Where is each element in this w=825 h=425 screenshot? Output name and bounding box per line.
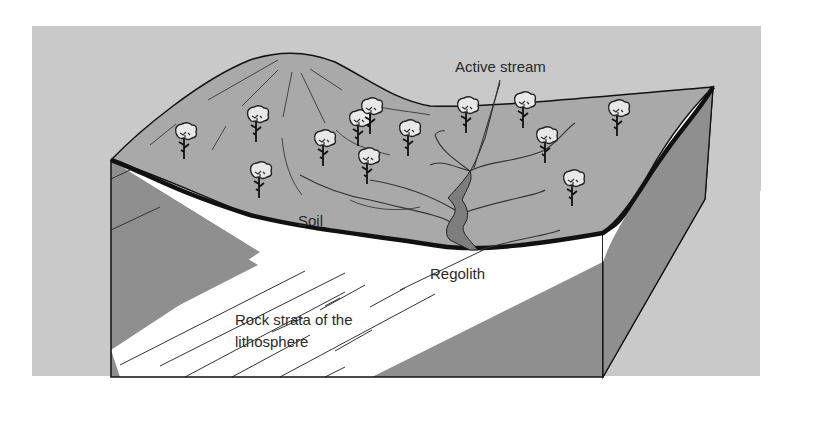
- landscape-block-diagram: Active stream Soil Regolith Rock strata …: [0, 0, 825, 425]
- label-regolith: Regolith: [430, 265, 485, 282]
- label-soil: Soil: [298, 212, 323, 229]
- label-rock-strata-line1: Rock strata of the: [235, 311, 353, 328]
- label-active-stream: Active stream: [455, 58, 546, 75]
- label-rock-strata-line2: lithosphere: [235, 333, 308, 350]
